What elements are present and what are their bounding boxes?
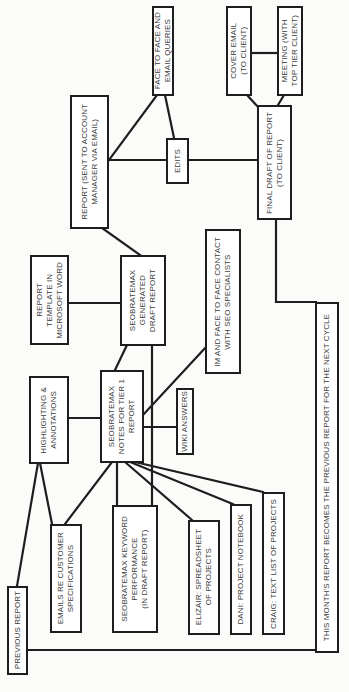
- node-label: SEOBRATEMAX keyword performance (in draf…: [120, 516, 150, 622]
- node-label: Report (sent to account manager via emai…: [80, 104, 100, 220]
- node-im-face-to-face-contact: IM and face to face contact with SEO spe…: [205, 229, 241, 374]
- node-label: Craig: text list of projects: [269, 499, 279, 629]
- node-label: Report template in Microsoft Word: [35, 262, 65, 339]
- node-craig-text-list: Craig: text list of projects: [262, 492, 285, 635]
- node-next-cycle-note: This month's report becomes the previous…: [315, 302, 339, 653]
- node-elizair-spreadsheet: Elizair: spreadsheet of projects: [188, 520, 220, 635]
- node-label: Dani: project notebook: [236, 514, 246, 625]
- node-edits: Edits: [166, 138, 189, 184]
- node-emails-customer-specifications: Emails re customer specifications: [50, 524, 82, 633]
- node-previous-report: Previous report: [7, 586, 28, 675]
- node-label: This month's report becomes the previous…: [322, 314, 332, 641]
- node-label: Wiki answers: [180, 391, 190, 452]
- node-cover-email: Cover email (to client): [226, 6, 252, 96]
- node-label: Emails re customer specifications: [56, 532, 76, 624]
- node-label: Elizair: spreadsheet of projects: [194, 529, 214, 625]
- node-label: SEOBRATEMAX generated draft report: [128, 269, 158, 332]
- node-label: Previous report: [13, 591, 23, 669]
- node-label: SEOBRATEMAX notes for tier 1 report: [107, 379, 137, 454]
- node-label: Final draft of report (to client): [265, 112, 285, 214]
- node-notes-for-tier1-report: SEOBRATEMAX notes for tier 1 report: [100, 370, 144, 463]
- node-label: IM and face to face contact with SEO spe…: [213, 237, 233, 367]
- workflow-diagram: Face to face and email queries Report (s…: [0, 0, 349, 692]
- node-keyword-performance: SEOBRATEMAX keyword performance (in draf…: [112, 505, 158, 633]
- node-label: Cover email (to client): [229, 23, 249, 79]
- node-report-sent-to-account-manager: Report (sent to account manager via emai…: [70, 95, 109, 229]
- node-report-template-word: Report template in Microsoft Word: [30, 255, 69, 345]
- node-generated-draft-report: SEOBRATEMAX generated draft report: [120, 255, 166, 346]
- node-label: Meeting (with top tier client): [280, 15, 300, 86]
- node-final-draft-of-report: Final draft of report (to client): [257, 105, 292, 220]
- node-meeting-top-tier-client: Meeting (with top tier client): [277, 6, 303, 96]
- node-dani-project-notebook: Dani: project notebook: [230, 504, 252, 635]
- node-highlighting-annotations: Highlighting & annotations: [29, 376, 69, 464]
- node-wiki-answers: Wiki answers: [176, 388, 194, 455]
- node-label: Edits: [173, 149, 183, 173]
- node-face-to-face-email-queries: Face to face and email queries: [152, 6, 174, 96]
- node-label: Highlighting & annotations: [39, 387, 59, 454]
- node-label: Face to face and email queries: [153, 12, 173, 89]
